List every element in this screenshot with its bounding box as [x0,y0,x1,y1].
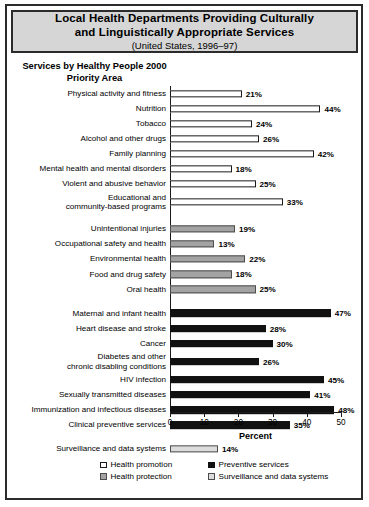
bar-row: Tobacco24% [11,116,358,131]
bar-category-label: Food and drug safety [11,270,170,279]
bar-value-label: 14% [222,444,238,453]
bar-row: Diabetes and other chronic disabling con… [11,351,358,372]
legend-label-health-protection: Health protection [111,472,172,481]
bar[interactable] [170,225,235,232]
x-axis-tick-label: 20 [234,418,243,427]
legend-swatch-health-promotion-icon [100,462,107,469]
bar-track: 41% [170,387,358,402]
bar[interactable] [170,180,256,187]
legend-label-surveillance-and-data-systems: Surveillance and data systems [219,472,329,481]
bar[interactable] [170,376,324,384]
bar[interactable] [170,358,259,366]
bar-track: 48% [170,402,358,417]
figure-title-banner: Local Health Departments Providing Cultu… [11,10,358,53]
bar-row: Occupational safety and health13% [11,237,358,252]
chart-category-heading: Services by Healthy People 2000 Priority… [16,61,173,84]
bar-row: Food and drug safety18% [11,267,358,282]
bar-category-label: Maternal and infant health [11,309,170,318]
bar-value-label: 18% [236,165,252,174]
legend-item-preventive-services[interactable]: Preventive services [208,460,340,469]
bar-category-label: Unintentional injuries [11,224,170,233]
bar-category-label: Educational and community-based programs [11,193,170,212]
bar-track: 45% [170,372,358,387]
bar-row: Physical activity and fitness21% [11,86,358,101]
chart-plot-area: Physical activity and fitness21%Nutritio… [11,86,358,426]
legend-item-health-promotion[interactable]: Health promotion [100,460,208,469]
bar-value-label: 21% [246,89,262,98]
bar-track: 14% [170,441,358,456]
bar[interactable] [170,105,320,112]
bar-value-label: 22% [249,255,265,264]
bar-track: 25% [170,282,358,297]
bar-track: 22% [170,252,358,267]
x-axis-tick-label: 0 [168,418,173,427]
x-axis-tick-label: 10 [200,418,209,427]
bar[interactable] [170,90,242,97]
bar-rows-container: Physical activity and fitness21%Nutritio… [11,86,358,456]
bar[interactable] [170,135,259,142]
bar-row: Nutrition44% [11,101,358,116]
x-axis-line [170,412,341,413]
bar-category-label: Heart disease and stroke [11,324,170,333]
bar[interactable] [170,325,266,333]
bar-track: 42% [170,146,358,161]
bar-track: 47% [170,306,358,321]
bar[interactable] [170,198,283,205]
chart-legend: Health promotion Preventive services Hea… [100,459,340,482]
figure-root: Local Health Departments Providing Cultu… [0,0,369,507]
legend-row: Health protection Surveillance and data … [100,471,340,483]
bar-track: 18% [170,161,358,176]
bar-category-label: Alcohol and other drugs [11,134,170,143]
bar[interactable] [170,340,273,348]
bar[interactable] [170,310,331,318]
bar[interactable] [170,165,232,172]
bar-category-label: Sexually transmitted diseases [11,390,170,399]
bar-row: Mental health and mental disorders18% [11,161,358,176]
legend-swatch-surveillance-icon [208,473,215,480]
bar[interactable] [170,271,232,278]
x-axis-title: Percent [170,431,341,441]
bar-row: Educational and community-based programs… [11,192,358,213]
bar-track: 21% [170,86,358,101]
bar-row: Cancer30% [11,336,358,351]
bar-value-label: 41% [314,390,330,399]
bar-category-label: Violent and abusive behavior [11,179,170,188]
bar-category-label: Physical activity and fitness [11,89,170,98]
bar-value-label: 25% [260,180,276,189]
bar-category-label: Nutrition [11,104,170,113]
bar[interactable] [170,240,214,247]
bar-value-label: 24% [256,119,272,128]
x-axis-tick-label: 40 [302,418,311,427]
legend-label-preventive-services: Preventive services [219,460,289,469]
bar-row: Environmental health22% [11,252,358,267]
bar-track: 28% [170,321,358,336]
bar-value-label: 30% [277,339,293,348]
bar-category-label: HIV infection [11,375,170,384]
bar-value-label: 45% [328,375,344,384]
figure-title-line-1: Local Health Departments Providing Cultu… [55,12,314,25]
group-spacer [11,212,358,221]
x-axis-tick [273,413,274,417]
bar-track: 25% [170,177,358,192]
bar-row: Alcohol and other drugs26% [11,131,358,146]
bar[interactable] [170,445,218,452]
bar-value-label: 42% [318,149,334,158]
bar-value-label: 13% [218,240,234,249]
bar[interactable] [170,120,252,127]
bar[interactable] [170,286,256,293]
legend-item-health-protection[interactable]: Health protection [100,472,208,481]
figure-subtitle: (United States, 1996–97) [132,40,238,52]
bar-row: Surveillance and data systems14% [11,441,358,456]
bar-track: 24% [170,116,358,131]
bar-row: HIV infection45% [11,372,358,387]
bar[interactable] [170,391,310,399]
bar-category-label: Mental health and mental disorders [11,164,170,173]
legend-row: Health promotion Preventive services [100,459,340,471]
x-axis-tick-label: 50 [336,418,345,427]
bar-track: 18% [170,267,358,282]
bar[interactable] [170,150,314,157]
legend-item-surveillance-and-data-systems[interactable]: Surveillance and data systems [208,472,340,481]
bar-track: 19% [170,221,358,236]
legend-swatch-health-protection-icon [100,473,107,480]
bar[interactable] [170,256,245,263]
